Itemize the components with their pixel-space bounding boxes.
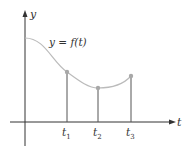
point-t3 (129, 74, 133, 78)
point-t1 (65, 70, 69, 74)
y-axis-arrow-icon (23, 10, 28, 17)
graph-svg: y t y = f(t) t1 t2 t3 (0, 0, 183, 154)
y-axis-label: y (29, 8, 37, 21)
point-t2 (96, 86, 100, 90)
curve-label: y = f(t) (48, 36, 87, 48)
tick-label-t1: t1 (62, 126, 71, 141)
tick-label-t3: t3 (126, 126, 135, 141)
function-graph-figure: y t y = f(t) t1 t2 t3 (0, 0, 183, 154)
t-axis-arrow-icon (169, 120, 176, 125)
t-axis-label: t (177, 116, 182, 129)
tick-label-t2: t2 (93, 126, 102, 141)
